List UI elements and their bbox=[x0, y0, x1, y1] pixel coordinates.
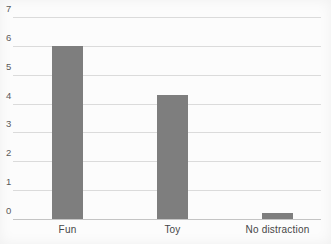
bar-toy bbox=[157, 95, 188, 219]
y-axis-tick-label: 7 bbox=[6, 3, 12, 15]
gridline bbox=[13, 17, 321, 18]
x-axis-category-label: Toy bbox=[120, 223, 225, 236]
bar-fun bbox=[52, 46, 83, 219]
x-axis-category-label: No distraction bbox=[225, 223, 330, 236]
y-axis-tick-label: 3 bbox=[6, 118, 12, 130]
y-axis-tick-label: 6 bbox=[6, 32, 12, 44]
x-axis-category-label: Fun bbox=[15, 223, 120, 236]
x-axis-baseline bbox=[13, 219, 321, 220]
y-axis-tick-label: 0 bbox=[6, 205, 12, 217]
y-axis-tick-label: 1 bbox=[6, 176, 12, 188]
y-axis-tick-label: 4 bbox=[6, 90, 12, 102]
y-axis-tick-label: 5 bbox=[6, 61, 12, 73]
bar-no-distraction bbox=[262, 213, 293, 219]
y-axis-tick-label: 2 bbox=[6, 147, 12, 159]
bar-chart: 01234567FunToyNo distraction bbox=[0, 0, 331, 244]
